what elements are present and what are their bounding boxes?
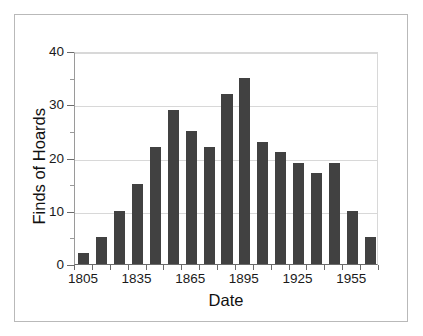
bar [293,163,304,264]
y-tick-mark [67,265,74,266]
bar [168,110,179,264]
x-tick-mark [128,265,129,270]
bar [239,78,250,264]
bar [221,94,232,264]
bar [96,237,107,264]
y-axis-title: Finds of Hoards [31,86,48,246]
bar [204,147,215,264]
x-tick-mark [306,265,307,270]
x-tick-mark [110,265,111,270]
bar [114,211,125,264]
bar [78,253,89,264]
bar [132,184,143,264]
bar [257,142,268,264]
x-tick-label: 1865 [160,272,220,286]
bar [365,237,376,264]
plot-area [74,52,378,265]
x-tick-label: 1835 [107,272,167,286]
y-tick-mark [67,159,74,160]
x-tick-mark [342,265,343,270]
x-tick-mark [74,265,75,270]
x-tick-mark [271,265,272,270]
x-tick-mark [378,265,379,270]
x-tick-mark [163,265,164,270]
bar [311,173,322,264]
bar [275,152,286,264]
y-tick-mark [67,52,74,53]
x-tick-label: 1895 [214,272,274,286]
x-tick-mark [253,265,254,270]
x-tick-label: 1925 [268,272,328,286]
x-tick-mark [324,265,325,270]
y-tick-mark [67,105,74,106]
bar [186,131,197,264]
bar [347,211,358,264]
y-tick-label: 0 [34,258,64,272]
chart-figure: 010203040 180518351865189519251955 Date … [0,0,423,336]
x-tick-mark [360,265,361,270]
x-tick-mark [217,265,218,270]
y-tick-mark [67,212,74,213]
gridline [75,53,377,54]
x-tick-mark [92,265,93,270]
x-tick-mark [235,265,236,270]
x-tick-mark [199,265,200,270]
x-tick-label: 1955 [321,272,381,286]
x-tick-label: 1805 [53,272,113,286]
x-tick-mark [146,265,147,270]
bar [329,163,340,264]
y-tick-label: 40 [34,45,64,59]
x-tick-mark [181,265,182,270]
x-axis-title: Date [74,292,378,309]
bar [150,147,161,264]
x-tick-mark [289,265,290,270]
